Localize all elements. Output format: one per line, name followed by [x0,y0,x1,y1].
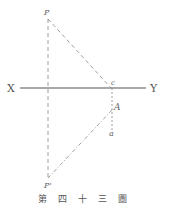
label-c: c [111,79,115,87]
diagram-canvas: X Y P P' c A a [0,0,169,210]
label-p: P [43,8,50,17]
line-a-p-prime [48,110,112,178]
figure-caption: 第 四 十 三 圖 [0,192,169,205]
label-a-lower: a [109,129,114,138]
label-y: Y [149,82,158,95]
label-p-prime: P' [43,181,52,190]
line-p-c [48,19,111,88]
label-a-upper: A [113,102,121,112]
label-x: X [7,82,15,95]
